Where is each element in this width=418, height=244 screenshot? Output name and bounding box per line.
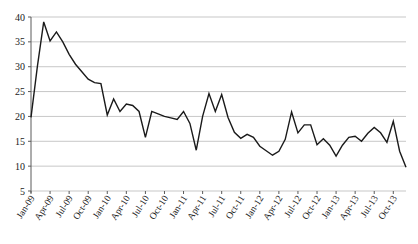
y-tick-label-40: 40 [15,12,25,23]
x-tick-label-Apr-13: Apr-13 [338,193,361,222]
x-tick-label-Apr-09: Apr-09 [33,193,56,222]
y-tick-label-5: 5 [20,186,25,197]
y-axis-labels-group: 510152025303540 [15,12,25,197]
x-tick-label-Oct-12: Oct-12 [300,193,323,221]
y-tick-label-30: 30 [15,61,25,72]
x-axis-labels-group: Jan-09Apr-09Jul-09Oct-09Jan-10Apr-10Jul-… [14,191,399,222]
x-tick-label-Apr-12: Apr-12 [261,193,284,222]
x-tick-label-Apr-10: Apr-10 [109,193,132,222]
y-tick-label-35: 35 [15,36,25,47]
y-tick-label-25: 25 [15,86,25,97]
x-tick-label-Oct-11: Oct-11 [224,193,247,220]
y-tick-label-10: 10 [15,161,25,172]
line-chart: 510152025303540 Jan-09Apr-09Jul-09Oct-09… [0,0,418,244]
chart-canvas: 510152025303540 Jan-09Apr-09Jul-09Oct-09… [0,0,418,244]
x-tick-label-Oct-09: Oct-09 [71,193,94,221]
y-tick-label-15: 15 [15,136,25,147]
data-series-line [31,22,406,167]
x-tick-label-Oct-13: Oct-13 [376,193,399,221]
x-tick-label-Apr-11: Apr-11 [185,193,208,221]
x-tick-label-Oct-10: Oct-10 [147,193,170,221]
y-tick-label-20: 20 [15,111,25,122]
